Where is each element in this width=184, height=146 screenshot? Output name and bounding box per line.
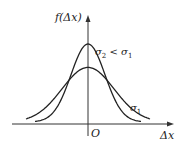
subscript: 1 <box>137 108 141 116</box>
y-axis-arrow-icon <box>86 15 91 22</box>
y-axis-label: f(Δx) <box>55 12 82 23</box>
sigma-symbol: σ <box>130 102 137 113</box>
x-axis-arrow-icon <box>167 122 174 127</box>
x-axis-label: Δx <box>160 130 174 141</box>
annotation-sigma1: σ1 <box>130 103 141 116</box>
sigma-symbol: σ <box>95 46 102 57</box>
annotation-sigma2-lt-sigma1: σ2 < σ1 <box>95 47 132 60</box>
sigma-symbol: σ <box>121 46 128 57</box>
subscript: 1 <box>128 52 132 60</box>
less-than: < <box>106 46 121 57</box>
normal-distribution-plot <box>0 0 184 146</box>
origin-label: O <box>91 128 100 139</box>
